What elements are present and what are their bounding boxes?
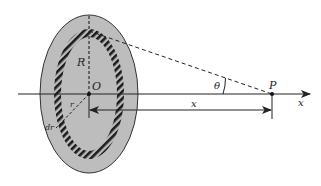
- label-dr: dr: [45, 123, 55, 132]
- angle-theta-arc: [223, 78, 226, 94]
- label-O: O: [92, 80, 101, 93]
- point-p: [270, 92, 274, 96]
- disk-field-diagram: R O r dr θ P x x: [0, 0, 321, 186]
- label-theta: θ: [214, 80, 220, 91]
- label-P: P: [268, 79, 277, 92]
- label-R: R: [76, 56, 85, 69]
- label-x-axis: x: [298, 97, 304, 108]
- label-x-distance: x: [191, 98, 197, 109]
- center-point-o: [87, 92, 91, 96]
